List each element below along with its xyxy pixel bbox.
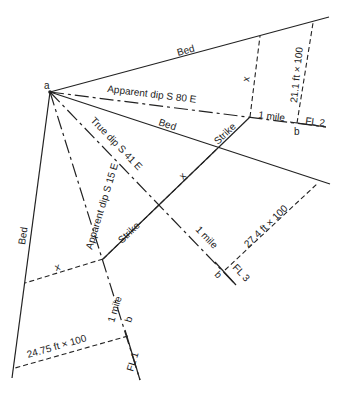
- b-label-fl2: b: [294, 126, 300, 137]
- bed-line-middle: [50, 92, 330, 184]
- bed-label-left: Bed: [16, 226, 29, 245]
- b-label-fl1: b: [122, 315, 134, 324]
- x-label-middle: x: [177, 170, 188, 181]
- fl2-label: FL 2: [305, 115, 326, 128]
- x-line-upper: [250, 36, 260, 117]
- true-dip-s41e-line: [50, 92, 236, 285]
- x-label-upper: x: [240, 76, 252, 82]
- one-mile-label-fl2: 1 mile: [258, 109, 286, 123]
- b-label-fl3: b: [213, 269, 225, 281]
- bed-label-middle: Bed: [157, 116, 177, 132]
- one-mile-label-fl3: 1 mile: [194, 224, 221, 251]
- fl1-label: FL 1: [124, 350, 140, 372]
- apparent-dip-s80e-label: Apparent dip S 80 E: [107, 83, 198, 105]
- apparent-dip-diagram: a Bed Bed Bed Apparent dip S 80 E True d…: [0, 0, 348, 400]
- strike-label-lower: Strike: [116, 219, 142, 245]
- origin-label: a: [44, 80, 50, 91]
- bed-label-top: Bed: [176, 43, 196, 58]
- fl3-label: FL 3: [231, 262, 253, 284]
- x-label-lower: x: [53, 261, 61, 273]
- strike-label-upper: Strike: [212, 120, 238, 146]
- true-dip-s41e-label: True dip S 41 E: [89, 115, 145, 173]
- depth-label-fl3: 27.4 ft × 100: [242, 202, 290, 249]
- depth-label-fl2: 21.1 ft × 100: [288, 46, 305, 103]
- x-line-lower: [25, 259, 103, 283]
